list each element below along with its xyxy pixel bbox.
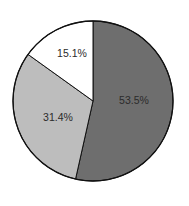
slice-label-2: 15.1% — [57, 47, 87, 59]
slice-label-0: 53.5% — [119, 94, 149, 106]
pie-slices — [13, 21, 173, 181]
pie-chart: 53.5% 31.4% 15.1% — [0, 0, 189, 206]
slice-label-1: 31.4% — [43, 111, 73, 123]
